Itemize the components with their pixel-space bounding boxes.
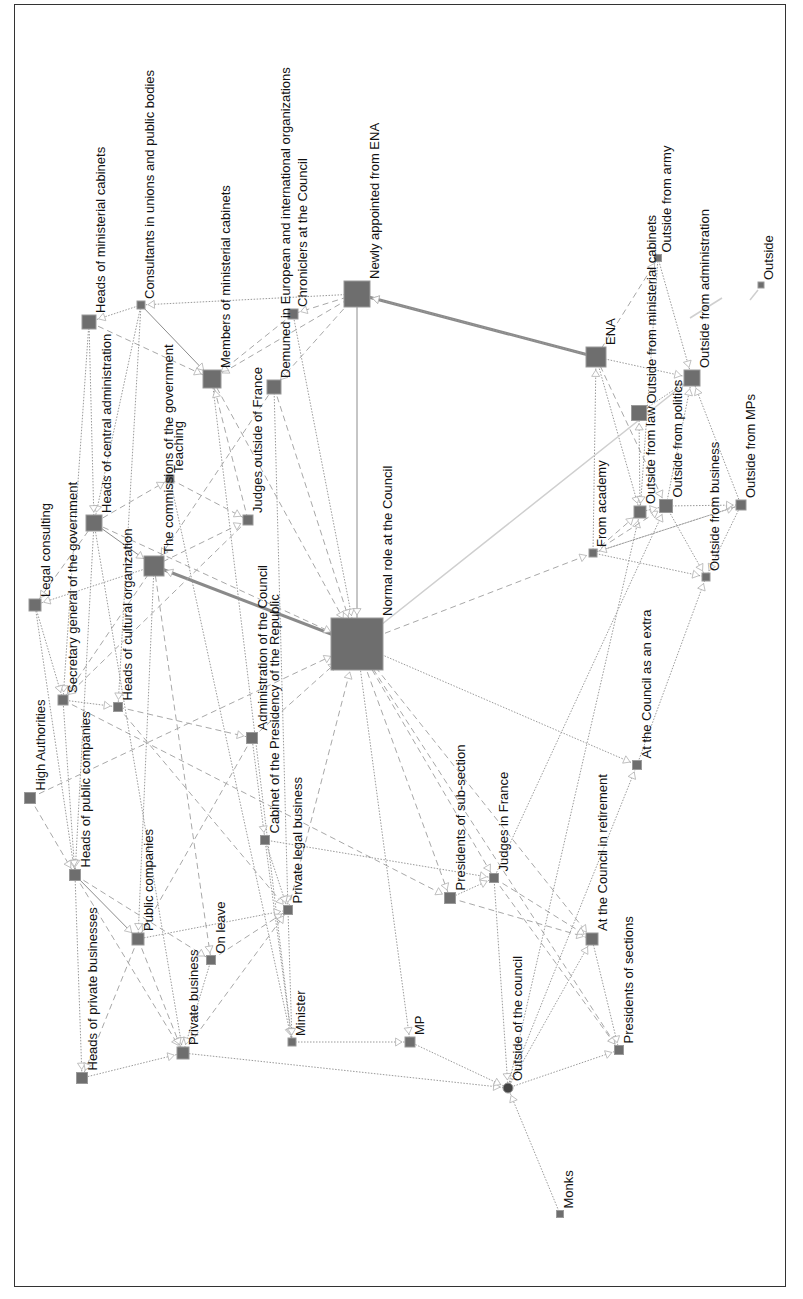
edge-normal-to-at_council_ret [357, 644, 592, 939]
edge-at_council_ret-to-pres_sections [592, 939, 619, 1050]
node-commissions [144, 556, 164, 576]
node-ena [586, 347, 606, 367]
node-at_council_ret [586, 933, 598, 945]
node-pres_sections [615, 1046, 624, 1055]
node-public_comp [132, 933, 144, 945]
edge-monks-to-outside_council [508, 1088, 560, 1214]
edge-private_legal-to-minister [288, 910, 292, 1042]
arrowhead-icon [435, 888, 443, 895]
arrowhead-icon [480, 872, 487, 880]
node-label: Demuned in European and international or… [278, 67, 293, 378]
edge-heads_central-to-private_bus [94, 523, 183, 1053]
arrowhead-icon [148, 300, 155, 308]
node-label: Outside from army [659, 145, 674, 252]
edge-private_bus-to-outside_council [183, 1053, 508, 1088]
edge-heads_public-to-heads_private [75, 875, 82, 1078]
node-label: Cabinet of the Presidency of the Republi… [267, 594, 282, 834]
node-cabinet_pres [261, 836, 270, 845]
edge-normal-to-pres_subsec [357, 644, 450, 898]
node-label: Chroniclers at the Council [295, 158, 310, 307]
node-label: Outside from politics [670, 379, 685, 497]
edge-newly_ena-to-consultants [141, 294, 357, 305]
arrowhead-icon [623, 756, 630, 763]
node-label: Legal consulting [38, 503, 53, 597]
arrowhead-icon [104, 701, 111, 709]
node-label: On leave [213, 901, 228, 953]
node-label: Outside [761, 235, 776, 280]
node-heads_central [86, 515, 102, 531]
node-label: Heads of private businesses [85, 907, 100, 1071]
node-members_cab [203, 370, 221, 388]
node-label: Normal role at the Council [380, 466, 395, 616]
network-diagram: Normal role at the CouncilNewly appointe… [0, 0, 803, 1299]
edge-normal-to-pres_sections [357, 644, 619, 1050]
node-newly_ena [344, 281, 370, 307]
arrowhead-icon [166, 569, 173, 576]
edge-mp-to-outside_council [410, 1042, 508, 1088]
node-label: Heads of ministerial cabinets [93, 146, 108, 313]
node-label: At the Council as an extra [639, 609, 654, 759]
node-label: Private business [186, 949, 201, 1045]
node-out_politics [660, 500, 673, 513]
node-out_law [634, 506, 646, 518]
node-label: Outside from ministerial cabinets [644, 214, 659, 403]
edge-judges_out-to-secgen [63, 520, 248, 700]
node-demuned [267, 380, 281, 394]
node-mp [405, 1037, 415, 1047]
edge-admin_council-to-cabinet_pres [252, 738, 265, 840]
edge-judges_fr-to-outside_council [494, 878, 508, 1088]
node-label: From academy [594, 460, 609, 547]
node-label: Heads of public companies [78, 711, 93, 868]
node-out_business [702, 573, 710, 581]
node-label: Teaching [171, 421, 186, 473]
node-private_bus [177, 1047, 189, 1059]
arrowhead-icon [633, 521, 641, 528]
stray-mark [750, 290, 758, 300]
arrowhead-icon [581, 947, 588, 955]
node-out_admin [684, 370, 700, 386]
node-monks [557, 1211, 564, 1218]
node-label: Outside of the council [510, 956, 525, 1081]
node-label: Private legal business [290, 777, 305, 904]
node-private_legal [284, 906, 293, 915]
node-label: ENA [603, 318, 618, 345]
node-on_leave [207, 956, 216, 965]
node-label: Presidents of sub-section [453, 745, 468, 891]
node-label: Newly appointed from ENA [367, 123, 382, 279]
arrowhead-icon [55, 685, 63, 692]
node-label: MP [412, 1016, 427, 1036]
arrowhead-icon [99, 313, 106, 321]
arrowhead-icon [404, 1027, 412, 1034]
arrowhead-icon [344, 672, 352, 679]
node-high_auth [25, 793, 36, 804]
edge-public_comp-to-private_bus [138, 939, 183, 1053]
node-consultants [137, 301, 145, 309]
node-at_council_extra [633, 761, 642, 770]
arrowhead-icon [233, 523, 241, 530]
node-outside_council [503, 1083, 513, 1093]
node-label: Outside from MPs [743, 393, 758, 498]
edge-judges_out-to-members_cab [212, 379, 248, 520]
edge-normal-to-at_council_extra [357, 644, 637, 765]
edge-normal-to-judges_fr [357, 644, 494, 878]
node-label: Heads of central administration [99, 334, 114, 513]
node-label: Consultants in unions and public bodies [142, 69, 157, 299]
node-admin_council [247, 733, 258, 744]
node-label: Judges in France [496, 772, 511, 872]
node-normal [331, 618, 383, 670]
edge-out_army-to-out_admin [658, 258, 692, 378]
node-label: Outside from business [707, 441, 722, 571]
edge-legal-to-secgen [35, 605, 63, 700]
arrowhead-icon [685, 389, 693, 396]
arrowhead-icon [635, 423, 643, 429]
edge-cultural-to-admin_council [118, 707, 252, 738]
label-layer: Normal role at the CouncilNewly appointe… [33, 67, 777, 1209]
node-label: Heads of cultural organization [120, 529, 135, 701]
node-heads_private [77, 1073, 88, 1084]
arrowhead-icon [441, 883, 449, 890]
node-label: High Authorities [33, 699, 48, 791]
arrowhead-icon [136, 551, 144, 558]
node-label: Members of ministerial cabinets [218, 185, 233, 368]
node-cultural [114, 703, 123, 712]
arrowhead-icon [695, 388, 702, 395]
